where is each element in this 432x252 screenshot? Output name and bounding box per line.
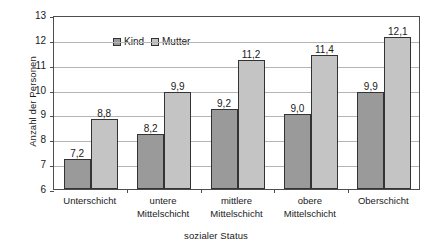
bar-chart: Anzahl der Personen 678910111213 Kind Mu… — [0, 0, 432, 252]
bar-mutter-2 — [238, 60, 265, 189]
x-axis-tick — [127, 189, 128, 193]
y-axis-tick-label: 13 — [24, 11, 46, 21]
y-axis-tick — [50, 42, 54, 43]
bar-kind-0 — [64, 159, 91, 189]
gridline — [54, 42, 419, 43]
bar-kind-4 — [357, 92, 384, 189]
x-axis-title: sozialer Status — [0, 230, 432, 241]
y-axis-tick-label: 8 — [24, 135, 46, 145]
y-axis-tick-label: 12 — [24, 36, 46, 46]
y-axis-tick — [50, 116, 54, 117]
gridline — [54, 67, 419, 68]
bar-mutter-4 — [384, 37, 411, 189]
y-axis-tick — [50, 141, 54, 142]
y-axis-tick-label: 7 — [24, 160, 46, 170]
y-axis-tick-label: 10 — [24, 86, 46, 96]
bar-mutter-0 — [91, 119, 118, 189]
bar-kind-3 — [284, 114, 311, 189]
y-axis-tick — [50, 17, 54, 18]
x-axis-category-label: Oberschicht — [337, 194, 430, 207]
bar-value-label: 11,4 — [305, 44, 344, 55]
x-axis-tick — [274, 189, 275, 193]
bar-value-label: 12,1 — [378, 26, 417, 37]
bar-value-label: 8,8 — [85, 108, 124, 119]
bar-kind-1 — [137, 134, 164, 189]
x-axis-category-label-line: Oberschicht — [337, 194, 430, 207]
bar-mutter-3 — [311, 55, 338, 189]
x-axis-category-label-line: Mittelschicht — [263, 207, 356, 220]
x-axis-tick — [201, 189, 202, 193]
y-axis-tick — [50, 191, 54, 192]
y-axis-tick — [50, 92, 54, 93]
bar-value-label: 11,2 — [232, 49, 271, 60]
y-axis-tick-labels: 678910111213 — [22, 0, 46, 252]
bar-value-label: 9,9 — [158, 81, 197, 92]
y-axis-tick-label: 9 — [24, 110, 46, 120]
y-axis-tick — [50, 67, 54, 68]
y-axis-tick — [50, 166, 54, 167]
y-axis-tick-label: 11 — [24, 61, 46, 71]
x-axis-tick — [348, 189, 349, 193]
x-axis-category-labels: UnterschichtuntereMittelschichtmittlereM… — [53, 194, 420, 234]
bar-mutter-1 — [164, 92, 191, 189]
bar-kind-2 — [211, 109, 238, 189]
plot-area: Kind Mutter 7,28,29,29,09,98,89,911,211,… — [53, 16, 420, 190]
